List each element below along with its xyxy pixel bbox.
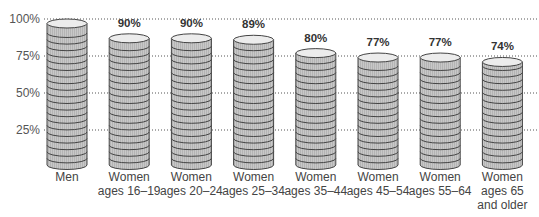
cylinder-bar (171, 34, 211, 170)
data-label: 90% (161, 17, 221, 29)
data-label: 77% (410, 36, 470, 48)
x-category-label: Womenages 55–64 (405, 170, 475, 198)
data-label: 80% (286, 32, 346, 44)
x-category-label: Womenages 20–24 (156, 170, 226, 198)
x-category-label: Men (32, 170, 102, 184)
cylinder-bar (234, 35, 274, 169)
cylinder-bar (47, 19, 87, 169)
cylinder-bar (482, 57, 522, 169)
y-tick-label: 50% (0, 86, 40, 100)
data-label: 77% (348, 36, 408, 48)
cylinder-bar (420, 53, 460, 169)
data-label: 74% (472, 40, 532, 52)
y-tick-label: 25% (0, 123, 40, 137)
data-label: 90% (99, 17, 159, 29)
x-category-label: Womenages 65and older (467, 170, 537, 212)
data-label: 89% (224, 18, 284, 30)
cylinder-bar (109, 34, 149, 170)
x-category-label: Womenages 25–34 (219, 170, 289, 198)
cylinder-bar (358, 53, 398, 169)
x-category-label: Womenages 16–19 (94, 170, 164, 198)
cylinder-bar (296, 49, 336, 170)
x-category-label: Womenages 45–54 (343, 170, 413, 198)
y-tick-label: 100% (0, 12, 40, 26)
x-category-label: Womenages 35–44 (281, 170, 351, 198)
coin-stack-chart: 25%50%75%100%Men90%Womenages 16–1990%Wom… (0, 0, 539, 217)
y-tick-label: 75% (0, 49, 40, 63)
